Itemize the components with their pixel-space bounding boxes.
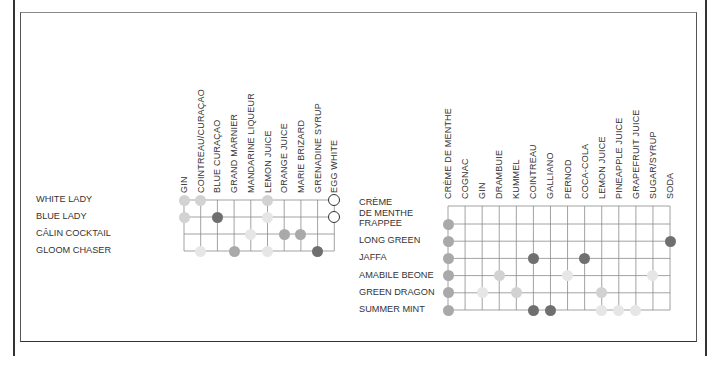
column-label-gin: GIN: [477, 182, 487, 199]
column-label-kummel: KUMMEL: [511, 159, 521, 199]
ingredient-dot-jaffa-coca-cola: [579, 253, 590, 264]
ingredient-dot-green-dragon-gin: [477, 287, 488, 298]
ingredient-dot-long-green-cr-me-de-menthe: [443, 236, 454, 247]
row-label-long-green: LONG GREEN: [359, 235, 420, 245]
row-label-frappee: FRAPPEE: [359, 218, 402, 228]
ingredient-dot-summer-mint-lemon-juice: [596, 305, 607, 316]
ingredient-dot-summer-mint-cointreau: [528, 305, 539, 316]
right-chart-grid-lines: [0, 0, 715, 370]
row-label-jaffa: JAFFA: [359, 252, 387, 262]
ingredient-dot-green-dragon-cr-me-de-menthe: [443, 287, 454, 298]
column-label-coca-cola: COCA-COLA: [580, 144, 590, 199]
ingredient-dot-amabile-beone-drambuie: [494, 270, 505, 281]
ingredient-dot-summer-mint-galliano: [545, 305, 556, 316]
ingredient-dot-cr-me-de-menthe-frappee-cr-me-de-menthe: [443, 219, 454, 230]
column-label-sugar-syrup: SUGAR/SYRUP: [648, 131, 658, 199]
ingredient-dot-jaffa-cr-me-de-menthe: [443, 253, 454, 264]
column-label-lemon-juice: LEMON JUICE: [597, 136, 607, 199]
ingredient-dot-summer-mint-cr-me-de-menthe: [443, 305, 454, 316]
ingredient-dot-amabile-beone-cr-me-de-menthe: [443, 270, 454, 281]
row-label-de-menthe: DE MENTHE: [359, 208, 413, 218]
column-label-cr-me-de-menthe: CRÈME DE MENTHE: [443, 108, 453, 199]
ingredient-dot-summer-mint-pineapple-juice: [613, 305, 624, 316]
column-label-pineapple-juice: PINEAPPLE JUICE: [614, 117, 624, 199]
row-label-amabile-beone: AMABILE BEONE: [359, 270, 434, 280]
ingredient-dot-long-green-soda: [665, 236, 676, 247]
column-label-pernod: PERNOD: [563, 159, 573, 199]
column-label-drambuie: DRAMBUIE: [494, 150, 504, 199]
row-label-summer-mint: SUMMER MINT: [359, 304, 425, 314]
column-label-grapefruit-juice: GRAPEFRUIT JUICE: [631, 109, 641, 199]
column-label-cointreau: COINTREAU: [528, 144, 538, 199]
column-label-galliano: GALLIANO: [545, 152, 555, 199]
ingredient-dot-jaffa-cointreau: [528, 253, 539, 264]
row-label-green-dragon: GREEN DRAGON: [359, 287, 435, 297]
row-label-cr-me: CRÈME: [359, 197, 392, 207]
ingredient-dot-summer-mint-grapefruit-juice: [630, 305, 641, 316]
column-label-cognac: COGNAC: [460, 158, 470, 199]
column-label-soda: SODA: [665, 173, 675, 199]
